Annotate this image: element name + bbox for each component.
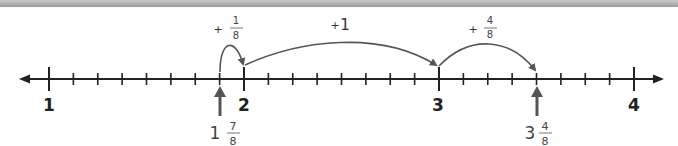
hop-arc-2 xyxy=(245,42,436,65)
marker-2-numerator: 4 xyxy=(542,120,549,133)
hop-arc-1 xyxy=(220,45,243,72)
major-labels: 1 2 3 4 xyxy=(43,95,640,115)
svg-text:+: + xyxy=(330,19,339,32)
svg-text:+: + xyxy=(213,23,222,36)
up-arrow-icon xyxy=(214,86,226,97)
up-arrow-icon xyxy=(531,86,543,97)
label-4: 4 xyxy=(628,95,640,115)
hop-1-denominator: 8 xyxy=(233,30,239,41)
hop-2-whole: 1 xyxy=(340,16,350,34)
hop-label-1: + 1 8 xyxy=(213,15,243,41)
marker-arrow-1 xyxy=(214,86,226,116)
label-1: 1 xyxy=(43,95,55,115)
svg-text:+: + xyxy=(468,23,477,36)
hop-arcs xyxy=(220,42,535,72)
marker-1-denominator: 8 xyxy=(230,135,237,146)
marker-arrow-2 xyxy=(531,86,543,116)
hop-1-numerator: 1 xyxy=(233,15,239,26)
label-2: 2 xyxy=(238,95,250,115)
hop-3-denominator: 8 xyxy=(487,29,493,40)
left-arrow-icon xyxy=(19,75,30,84)
marker-2-whole: 3 xyxy=(525,123,536,143)
hop-label-2: + 1 xyxy=(330,16,349,34)
right-arrow-icon xyxy=(653,75,664,84)
number-line-diagram: 1 2 3 4 + 1 8 + 1 + 4 8 1 7 8 xyxy=(0,0,678,146)
hop-arc-3 xyxy=(439,44,535,70)
marker-1-whole: 1 xyxy=(210,123,221,143)
hop-label-3: + 4 8 xyxy=(468,15,497,40)
label-3: 3 xyxy=(432,95,444,115)
marker-1-numerator: 7 xyxy=(230,120,237,133)
marker-2-denominator: 8 xyxy=(542,135,549,146)
marker-label-2: 3 4 8 xyxy=(525,120,552,146)
marker-label-1: 1 7 8 xyxy=(210,120,240,146)
hop-3-numerator: 4 xyxy=(487,15,493,26)
